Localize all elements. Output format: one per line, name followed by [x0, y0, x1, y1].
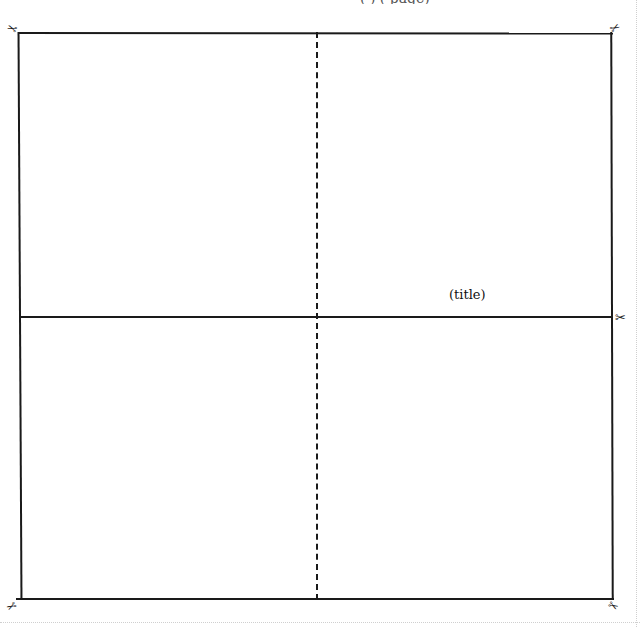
scissors-icon-bottom-left: ✂ — [4, 598, 19, 613]
scissors-icon-bottom-right: ✂ — [606, 598, 621, 613]
fold-line-vertical-dashed — [316, 32, 318, 600]
clipped-header-text: ( ) ( page) — [360, 0, 430, 4]
page-edge-right-dotted — [636, 0, 637, 627]
page-edge-bottom-dotted — [0, 622, 640, 623]
fold-template-sheet: (title) — [19, 32, 613, 600]
scissors-icon-middle-right: ✂ — [615, 311, 626, 324]
title-label: (title) — [449, 287, 486, 302]
cut-line-bottom — [16, 598, 614, 600]
